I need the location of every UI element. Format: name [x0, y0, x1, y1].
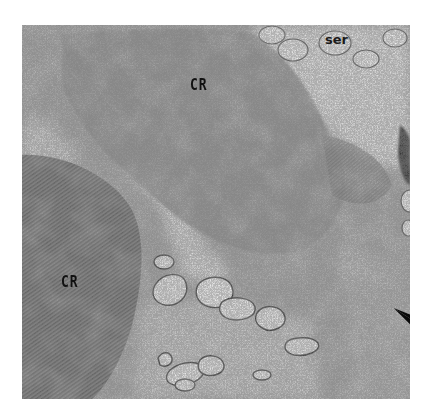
- arrowhead-icon: [348, 235, 410, 399]
- label-cr-upper: CR: [190, 76, 208, 92]
- label-cr-lower: CR: [61, 273, 79, 289]
- label-ser: ser: [325, 33, 348, 46]
- electron-micrograph: CR CR ser: [22, 25, 410, 399]
